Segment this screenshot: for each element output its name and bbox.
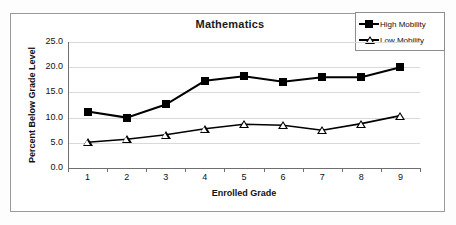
y-axis-tick-label: 5.0 [23, 137, 63, 147]
x-axis-tick-label: 7 [307, 172, 337, 182]
x-axis-tick-label: 3 [151, 172, 181, 182]
legend-label-high-mobility: High Mobility [379, 20, 426, 29]
data-point-marker-triangle [239, 120, 249, 128]
data-point-marker-triangle [278, 121, 288, 129]
data-point-marker-triangle [395, 112, 405, 120]
data-point-marker-square [396, 63, 404, 71]
x-axis-line [68, 168, 421, 169]
data-point-marker-square [123, 114, 131, 122]
data-point-marker-triangle [161, 131, 171, 139]
x-axis-tick [185, 168, 186, 172]
x-axis-tick [146, 168, 147, 172]
chart-title: Mathematics [120, 18, 340, 30]
x-axis-tick-label: 8 [346, 172, 376, 182]
data-point-marker-square [279, 78, 287, 86]
data-point-marker-square [201, 77, 209, 85]
x-axis-tick-label: 9 [385, 172, 415, 182]
data-point-marker-square [357, 73, 365, 81]
x-axis-tick [381, 168, 382, 172]
y-axis-tick-label: 10.0 [23, 112, 63, 122]
x-axis-tick [224, 168, 225, 172]
y-axis-title: Percent Below Grade Level [27, 39, 37, 171]
y-axis-tick-label: 0.0 [23, 162, 63, 172]
x-axis-tick [68, 168, 69, 172]
series-lines [68, 42, 420, 168]
data-point-marker-square [162, 100, 170, 108]
data-point-marker-triangle [317, 126, 327, 134]
x-axis-tick [420, 168, 421, 172]
chart-figure: Mathematics High Mobility Low Mobility P… [0, 0, 456, 225]
x-axis-title: Enrolled Grade [68, 188, 420, 198]
x-axis-tick-label: 2 [112, 172, 142, 182]
x-axis-tick [107, 168, 108, 172]
y-axis-tick-label: 15.0 [23, 86, 63, 96]
data-point-marker-triangle [200, 125, 210, 133]
data-point-marker-square [84, 108, 92, 116]
x-axis-tick [264, 168, 265, 172]
y-axis-tick-label: 25.0 [23, 36, 63, 46]
x-axis-tick-label: 1 [73, 172, 103, 182]
x-axis-tick-label: 4 [190, 172, 220, 182]
x-axis-tick-label: 6 [268, 172, 298, 182]
data-point-marker-square [240, 72, 248, 80]
plot-area [68, 42, 420, 168]
x-axis-tick [303, 168, 304, 172]
x-axis-tick [342, 168, 343, 172]
legend-marker-filled-square-icon [359, 18, 379, 30]
data-point-marker-triangle [356, 120, 366, 128]
x-axis-tick-label: 5 [229, 172, 259, 182]
data-point-marker-triangle [122, 135, 132, 143]
data-point-marker-triangle [83, 138, 93, 146]
y-axis-tick-label: 20.0 [23, 61, 63, 71]
data-point-marker-square [318, 73, 326, 81]
legend-item-high-mobility: High Mobility [359, 16, 441, 32]
